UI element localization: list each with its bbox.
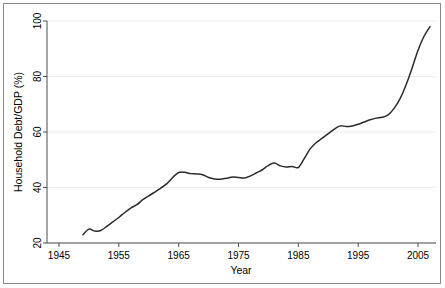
x-tick-label: 1995 (347, 250, 370, 261)
gridlines-group (47, 21, 436, 243)
data-series-line (83, 27, 430, 235)
x-tick-label: 2005 (407, 250, 430, 261)
line-chart: 1945195519651975198519952005 20406080100… (0, 0, 445, 288)
x-tick-label: 1985 (287, 250, 310, 261)
x-tick-label: 1975 (227, 250, 250, 261)
y-tick-label: 40 (32, 182, 43, 194)
y-tick-label: 80 (32, 71, 43, 83)
y-axis-title: Household Debt/GDP (%) (12, 72, 24, 192)
x-tick-label: 1965 (168, 250, 191, 261)
chart-figure: 1945195519651975198519952005 20406080100… (0, 0, 445, 288)
y-tick-label: 60 (32, 126, 43, 138)
x-axis-title: Year (230, 264, 252, 276)
tick-marks-group (43, 21, 418, 247)
y-tick-label: 20 (32, 237, 43, 249)
x-tick-label: 1945 (48, 250, 71, 261)
x-tick-label: 1955 (108, 250, 131, 261)
y-tick-labels-group: 20406080100 (32, 12, 43, 248)
y-tick-label: 100 (32, 12, 43, 29)
x-tick-labels-group: 1945195519651975198519952005 (48, 250, 430, 261)
